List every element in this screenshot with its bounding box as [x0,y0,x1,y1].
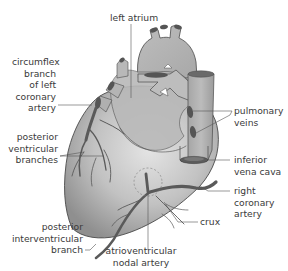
label-inferior-vena-cava: inferior vena cava [234,154,281,177]
label-circumflex-branch: circumflex branch of left coronary arter… [12,56,56,114]
label-pulmonary-veins: pulmonary veins [234,105,283,128]
label-crux: crux [200,216,220,228]
label-posterior-interventricular-branch: posterior interventricular branch [6,221,83,256]
label-posterior-ventricular-branches: posterior ventricular branches [8,131,58,166]
heart-diagram: left atrium circumflex branch of left co… [0,0,288,271]
label-left-atrium: left atrium [110,12,158,24]
left-atrium-shape [138,24,197,78]
label-atrioventricular-nodal-artery: atrioventricular nodal artery [103,245,179,268]
label-right-coronary-artery: right coronary artery [234,185,275,220]
